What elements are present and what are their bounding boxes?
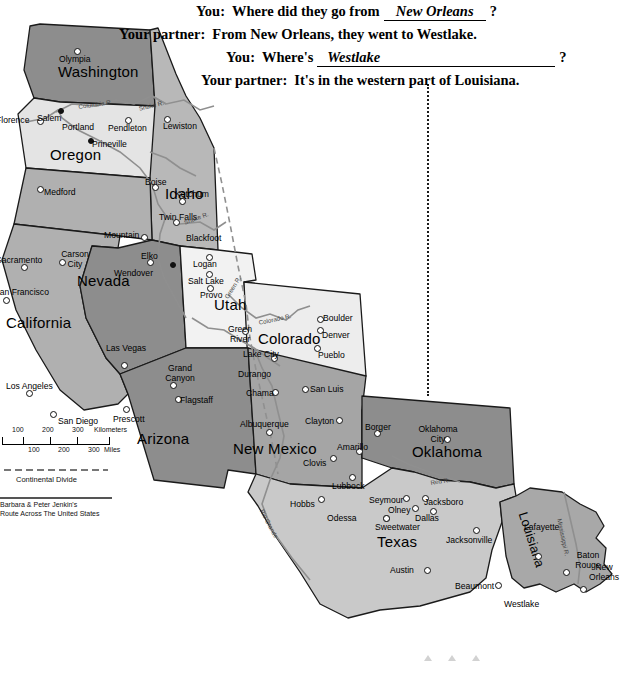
dialogue-speaker: Your partner: [201, 72, 287, 89]
credit-line-2: Route Across The United States [0, 510, 99, 519]
scale-bar [0, 437, 150, 446]
city-marker-dot [170, 262, 176, 268]
dialogue-block: You: Where did they go from New Orleans … [0, 0, 616, 98]
city-marker-dot [495, 582, 502, 589]
mi-tick-300: 300 [88, 446, 100, 453]
map-legend: 100 200 300 Kilometers 100 200 300 Miles… [0, 425, 150, 521]
km-unit-label: Kilometers [94, 426, 127, 433]
dialogue-line-4: Your partner: It's in the western part o… [201, 72, 520, 89]
answer-blank-westlake[interactable]: Westlake [317, 49, 555, 67]
city-marker-dot [336, 417, 343, 424]
dialogue-line-2: Your partner: From New Orleans, they wen… [119, 26, 477, 43]
city-marker-dot [141, 234, 148, 241]
dialogue-text: Where did they go from [232, 3, 380, 20]
map-svg [0, 18, 616, 674]
city-marker-dot [444, 436, 451, 443]
mi-tick-100: 100 [28, 446, 40, 453]
city-marker-dot [164, 116, 171, 123]
credit-text: Barbara & Peter Jenkin's Route Across Th… [0, 501, 99, 518]
credit-divider [0, 497, 112, 499]
city-marker-dot [318, 496, 325, 503]
state-louisiana [500, 488, 612, 592]
mi-tick-200: 200 [58, 446, 70, 453]
dialogue-text: It's in the western part of Louisiana. [294, 72, 519, 89]
city-marker-dot [356, 448, 363, 455]
city-marker-dot [271, 355, 278, 362]
continental-divide-label: Continental Divide [16, 475, 77, 484]
city-marker-dot [37, 118, 44, 125]
city-marker-dot [403, 495, 410, 502]
dialogue-text: Where's [262, 49, 313, 66]
city-marker-dot [206, 254, 213, 261]
city-marker-dot [207, 285, 214, 292]
city-marker-dot [58, 108, 64, 114]
city-marker-dot [147, 259, 154, 266]
question-mark: ? [559, 49, 566, 66]
dialogue-line-3: You: Where's Westlake ? [226, 49, 567, 67]
city-marker-dot [430, 508, 437, 515]
km-tick-100: 100 [12, 426, 24, 433]
city-marker-dot [563, 569, 570, 576]
city-marker-dot [266, 429, 273, 436]
city-marker-dot [59, 259, 66, 266]
city-marker-dot [272, 389, 279, 396]
city-marker-dot [330, 455, 337, 462]
city-marker-dot [580, 586, 587, 593]
scale-mi-labels: 100 200 300 Miles [0, 446, 150, 460]
question-mark: ? [490, 3, 497, 20]
city-marker-dot [179, 198, 186, 205]
city-marker-dot [26, 390, 33, 397]
dialogue-speaker: You: [196, 3, 225, 20]
km-tick-300: 300 [72, 426, 84, 433]
city-marker-dot [50, 411, 57, 418]
city-marker-dot [123, 406, 130, 413]
dialogue-speaker: You: [226, 49, 255, 66]
mi-unit-label: Miles [104, 446, 120, 453]
city-marker-dot [424, 567, 431, 574]
city-marker-dot [170, 382, 177, 389]
city-marker-dot [175, 396, 182, 403]
dialogue-line-1: You: Where did they go from New Orleans … [196, 3, 497, 21]
dialogue-speaker: Your partner: [119, 26, 205, 43]
city-marker-dot [374, 430, 381, 437]
scale-tick [50, 437, 51, 444]
bottom-markers [424, 655, 480, 661]
city-marker-dot [242, 328, 249, 335]
city-marker-dot [349, 474, 356, 481]
vertical-dotted-pointer [427, 84, 429, 396]
city-marker-dot [152, 184, 159, 191]
scale-bar-rule [2, 437, 110, 445]
city-marker-dot [302, 386, 309, 393]
city-marker-dot [121, 362, 128, 369]
city-marker-dot [383, 515, 390, 522]
km-tick-200: 200 [42, 426, 54, 433]
city-marker-dot [422, 495, 429, 502]
city-marker-dot [314, 345, 321, 352]
scale-tick [77, 437, 78, 444]
city-marker-dot [125, 117, 132, 124]
continental-divide-key: Continental Divide [0, 469, 150, 491]
city-marker-dot [317, 327, 324, 334]
us-western-states-map [0, 18, 616, 674]
city-marker-dot [535, 553, 542, 560]
dialogue-text: From New Orleans, they went to Westlake. [212, 26, 476, 43]
city-marker-dot [37, 186, 44, 193]
credit-line-1: Barbara & Peter Jenkin's [0, 501, 99, 510]
city-marker-dot [21, 264, 28, 271]
city-marker-dot [412, 505, 419, 512]
city-marker-dot [206, 271, 213, 278]
state-texas [248, 468, 516, 618]
city-marker-dot [88, 138, 94, 144]
scale-tick [23, 437, 24, 444]
continental-divide-swatch [4, 469, 108, 471]
city-marker-dot [473, 527, 480, 534]
credit-block: Barbara & Peter Jenkin's Route Across Th… [0, 497, 150, 521]
answer-blank-new-orleans[interactable]: New Orleans [384, 3, 486, 21]
city-marker-dot [317, 316, 324, 323]
city-marker-dot [173, 219, 180, 226]
city-marker-dot [3, 297, 10, 304]
scale-km-labels: 100 200 300 Kilometers [0, 425, 150, 437]
